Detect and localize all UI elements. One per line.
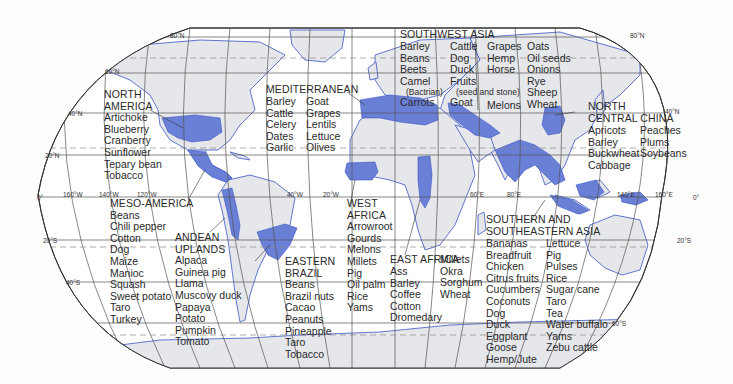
region-label-mediterranean: MEDITERRANEAN Barley Cattle Celery Dates… — [266, 84, 376, 154]
crop-item: Water buffalo — [546, 319, 608, 331]
crop-item: Barley — [400, 41, 443, 53]
crop-item: Duck — [486, 319, 540, 331]
crop-item: Sunflower — [104, 147, 162, 159]
region-title: WEST — [347, 198, 393, 210]
crop-item: Peanuts — [285, 314, 335, 326]
lat-label-equator-right: 0° — [693, 194, 699, 201]
crop-item: Tobacco — [104, 170, 162, 182]
crop-item: Garlic — [266, 142, 296, 154]
crop-item: Lettuce — [546, 238, 608, 250]
crop-item: Wheat — [527, 99, 571, 111]
region-title: NORTH — [588, 101, 708, 113]
crop-item: Potato — [175, 313, 242, 325]
lon-label-20w: 20°W — [323, 191, 339, 198]
crop-item: Yams — [347, 302, 393, 314]
region-label-north-america: NORTH AMERICA Artichoke Blueberry Cranbe… — [104, 89, 162, 182]
crop-item: Soybeans — [640, 148, 687, 160]
region-label-east-africa: EAST AFRICA Ass Barley Coffee Cotton Dro… — [390, 254, 500, 324]
crop-item: Horse — [487, 64, 521, 76]
lon-label-160w: 160°W — [63, 191, 83, 198]
lon-label-160e: 160°E — [655, 191, 673, 198]
region-label-andean-uplands: ANDEAN UPLANDS Alpaca Guinea pig Llama M… — [175, 232, 242, 348]
crop-item: Peaches — [640, 125, 687, 137]
crop-item: Grapes — [487, 41, 521, 53]
crop-item: Cabbage — [588, 160, 639, 172]
crop-item: Dromedary — [390, 312, 442, 324]
crop-item: Millets — [347, 256, 393, 268]
crop-item: Wheat — [440, 289, 483, 301]
crop-item: Tobacco — [285, 349, 335, 361]
lat-label-equator-left: 0° — [37, 194, 43, 201]
lat-label-40n-left: 40°N — [68, 110, 83, 117]
lon-label-40w: 40°W — [287, 191, 303, 198]
crop-item: Apricots — [588, 125, 639, 137]
crop-item: Goat — [306, 96, 340, 108]
crop-item: Oats — [527, 41, 571, 53]
crop-item: Olives — [306, 142, 340, 154]
region-west-africa — [345, 162, 378, 180]
lat-label-80n-left: 80°N — [170, 32, 185, 39]
lat-label-40s: 40°S — [66, 279, 80, 286]
region-title: SOUTHWEST ASIA — [400, 29, 640, 41]
region-label-eastern-brazil: EASTERN BRAZIL Beans Brazil nuts Cacao P… — [285, 256, 335, 360]
region-label-southwest-asia: SOUTHWEST ASIA Barley Beans Beets Camel … — [400, 29, 640, 109]
crop-item: Camel — [400, 76, 443, 88]
lat-label-60n: 60°N — [105, 68, 120, 75]
lon-label-140e: 140°E — [617, 191, 635, 198]
crop-item: Zebu cattle — [546, 342, 608, 354]
region-label-southern-southeastern-asia: SOUTHERN AND SOUTHEASTERN ASIA Bananas B… — [486, 214, 636, 374]
region-title: SOUTHEASTERN ASIA — [486, 226, 636, 238]
region-title: SOUTHERN AND — [486, 214, 636, 226]
lat-label-20n: 20°N — [45, 152, 60, 159]
crop-item: Bananas — [486, 238, 540, 250]
region-title: ANDEAN — [175, 232, 242, 244]
region-title: EASTERN — [285, 256, 335, 268]
region-title: NORTH — [104, 89, 162, 101]
crop-item: Taro — [546, 296, 608, 308]
crop-item: Muscovy duck — [175, 290, 242, 302]
region-title: CENTRAL CHINA — [588, 113, 708, 125]
crop-item: Coconuts — [486, 296, 540, 308]
crop-item: Ass — [390, 266, 442, 278]
crop-item: Barley — [266, 96, 296, 108]
crop-item: Taro — [285, 337, 335, 349]
crop-item: Hemp/Jute — [486, 354, 540, 366]
region-title: MEDITERRANEAN — [266, 84, 376, 96]
lat-label-20s-right: 20°S — [677, 237, 691, 244]
crop-item: Tomato — [175, 336, 242, 348]
lon-label-80e: 80°E — [507, 191, 521, 198]
region-label-west-africa: WEST AFRICA Arrowroot Gourds Melons Mill… — [347, 198, 393, 314]
lat-label-20s-left: 20°S — [43, 237, 57, 244]
crop-item: Millets — [440, 254, 483, 266]
region-title: MESO-AMERICA — [110, 198, 193, 210]
crop-item: Oil palm — [347, 279, 393, 291]
crop-item: Carrots — [400, 97, 443, 109]
region-label-north-central-china: NORTH CENTRAL CHINA Apricots Barley Buck… — [588, 101, 708, 171]
lon-label-60e: 60°E — [470, 191, 484, 198]
crop-item: Melons — [487, 100, 521, 112]
